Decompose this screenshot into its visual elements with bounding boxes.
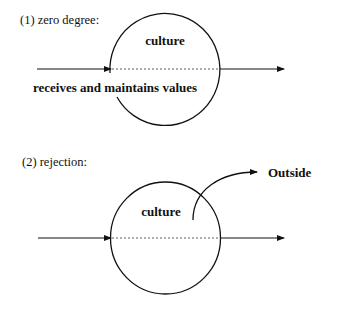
- culture-label-1: culture: [145, 33, 185, 48]
- diagram-2-title: (2) rejection:: [22, 155, 87, 169]
- outside-label: Outside: [268, 165, 312, 180]
- diagram-zero-degree: (1) zero degree: culture receives and ma…: [20, 13, 284, 125]
- culture-label-2: culture: [141, 204, 181, 219]
- culture-circle-1: [110, 13, 220, 125]
- diagram-1-title: (1) zero degree:: [20, 13, 99, 27]
- diagram-rejection: (2) rejection: culture Outside: [22, 155, 312, 294]
- caption-receives-values: receives and maintains values: [33, 80, 197, 95]
- diagram-canvas: (1) zero degree: culture receives and ma…: [0, 0, 339, 317]
